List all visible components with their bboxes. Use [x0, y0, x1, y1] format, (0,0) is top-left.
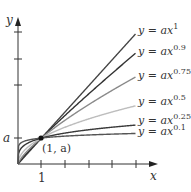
- curve-label: y = ax0.75: [137, 67, 191, 82]
- x-axis-arrow-icon: [149, 161, 158, 167]
- curve-exp-0_75: [18, 77, 136, 164]
- curve-exp-0_9: [18, 53, 136, 164]
- curve-label: y = ax0.5: [137, 93, 186, 108]
- curve-label: y = ax0.1: [137, 123, 186, 138]
- curve-exp-0_1: [18, 133, 136, 164]
- point-1-a: [38, 135, 43, 140]
- x-axis-label: x: [150, 169, 157, 183]
- y-axis-label: y: [5, 13, 13, 27]
- curve-label: y = ax1: [137, 22, 178, 37]
- curves: [18, 34, 136, 164]
- curve-label: y = ax0.9: [137, 43, 186, 58]
- power-function-chart: y x 1 a (1, a) y = ax1y = ax0.9y = ax0.7…: [0, 0, 191, 192]
- y-tick-label-a: a: [3, 131, 10, 145]
- y-axis-arrow-icon: [15, 17, 21, 26]
- curve-labels: y = ax1y = ax0.9y = ax0.75y = ax0.5y = a…: [137, 22, 191, 138]
- x-tick-label-1: 1: [38, 171, 46, 185]
- point-label: (1, a): [42, 142, 71, 155]
